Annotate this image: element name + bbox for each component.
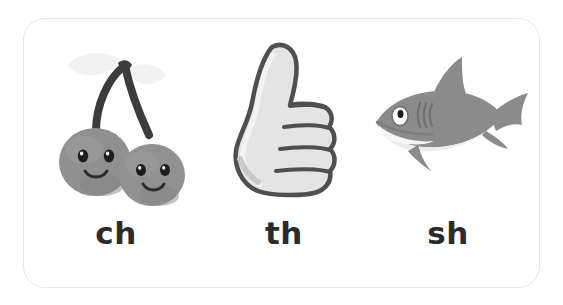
shark-dorsal-fin [434, 57, 466, 93]
digraph-item-th[interactable]: th [210, 19, 358, 289]
shark-lower-fin [482, 131, 508, 149]
shark [376, 57, 528, 173]
digraph-label-th: th [210, 215, 358, 251]
cherries-illustration [30, 19, 202, 215]
thumbs-up-hand [236, 45, 335, 195]
thumbs-up-illustration [210, 19, 358, 215]
cherry-stem-left [96, 67, 123, 131]
cherry-right [119, 144, 185, 206]
shark-eye [392, 107, 408, 126]
shark-illustration [362, 19, 534, 215]
digraph-item-sh[interactable]: sh [362, 19, 534, 289]
digraph-label-sh: sh [362, 215, 534, 251]
digraph-item-ch[interactable]: ch [30, 19, 202, 289]
digraph-flashcard-screen: ch [0, 0, 563, 305]
cherry-left [59, 128, 131, 196]
flashcard-panel: ch [23, 18, 540, 288]
digraph-label-ch: ch [30, 215, 202, 251]
